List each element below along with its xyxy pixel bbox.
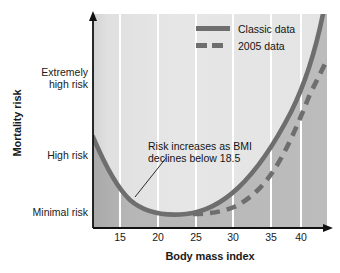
y-tick-extremely-high-risk: Extremely high risk [12, 67, 88, 90]
legend-item-2005-data: 2005 data [196, 38, 295, 53]
x-tick-25: 25 [183, 231, 209, 243]
chart-legend: Classic data 2005 data [196, 21, 295, 55]
legend-label-classic-data: Classic data [238, 23, 295, 35]
y-tick-minimal-risk: Minimal risk [12, 207, 88, 219]
annotation-line2: declines below 18.5 [148, 152, 266, 164]
y-tick-extremely-high-risk-line1: Extremely [12, 67, 88, 79]
x-tick-40: 40 [288, 231, 314, 243]
x-tick-15: 15 [107, 231, 133, 243]
legend-swatch-dashed-line-icon [196, 43, 230, 48]
legend-item-classic-data: Classic data [196, 21, 295, 36]
y-tick-high-risk: High risk [12, 150, 88, 162]
x-tick-20: 20 [145, 231, 171, 243]
x-axis-arrow-icon [323, 224, 333, 232]
annotation-callout: Risk increases as BMI declines below 18.… [148, 140, 266, 164]
annotation-line1: Risk increases as BMI [148, 140, 266, 152]
x-tick-30: 30 [220, 231, 246, 243]
x-axis-title: Body mass index [93, 250, 327, 262]
mortality-risk-bmi-chart: Mortality risk Extremely high risk High … [0, 0, 340, 273]
x-tick-35: 35 [258, 231, 284, 243]
legend-swatch-solid-line-icon [196, 26, 230, 31]
y-tick-extremely-high-risk-line2: high risk [12, 79, 88, 91]
legend-label-2005-data: 2005 data [238, 40, 285, 52]
